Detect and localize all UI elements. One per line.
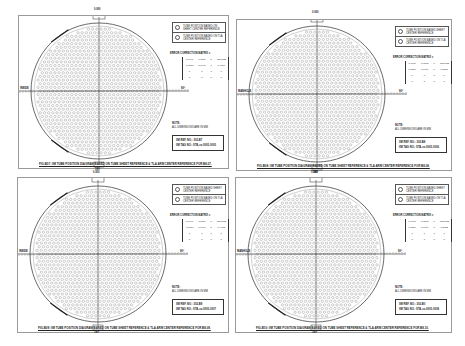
legend-item-tla: TUBE POSITION BASED ON TLA CENTER REFERE… <box>173 32 225 42</box>
legend-label: TUBE POSITION BASED ON SHEET CENTER REFE… <box>183 25 223 31</box>
drawing-panel-1: 0.000 INSIDE 90° 180° TUBE POSITION BASE… <box>18 15 229 169</box>
legend-box: TUBE POSITION BASED SHEET CENTER REFEREN… <box>395 26 449 47</box>
matrix-cell: 1 <box>214 74 229 80</box>
matrix-cell: 0 <box>183 74 196 80</box>
note-block: NOTE:ALL DIMENSIONS ARE IN MM <box>172 286 208 293</box>
legend-item-sheet: TUBE POSITION BASED SHEET CENTER REFEREN… <box>396 27 448 36</box>
error-matrix-title: ERROR CORRECTION MATRIX = <box>170 214 210 217</box>
legend-label: TUBE POSITION BASED ON TLA CENTER REFERE… <box>183 197 223 203</box>
tag-number: IIM TAG NO.: STA-xx-0005-0005 <box>176 143 220 148</box>
error-correction-matrix: 0.9998-0.00860-55.09820.00860.999800.381… <box>405 219 452 242</box>
right-label: 90° <box>398 250 402 253</box>
matrix-cell: 0 <box>406 236 419 242</box>
circle-marker-icon <box>175 25 180 30</box>
matrix-cell: 0 <box>183 236 196 242</box>
drawing-panel-3: 0.000 INSIDE 90° 180° TUBE POSITION BASE… <box>17 177 229 333</box>
top-label: 0.000 <box>93 171 100 174</box>
note-block: NOTE:ALL DIMENSIONS ARE IN MM <box>395 286 431 293</box>
note-text: ALL DIMENSIONS ARE IN MM <box>395 128 431 131</box>
circle-marker-icon <box>175 35 180 40</box>
figure-caption: FIG-B07: IIM TUBE POSITION DIAGRAM BASED… <box>39 162 212 166</box>
legend-label: TUBE POSITION BASED ON TLA CENTER REFERE… <box>406 39 446 45</box>
reference-box: IIM REF. NO.: 302-B8IIM TAG NO.: STA-xx-… <box>395 137 447 153</box>
note-title: NOTE: <box>395 286 403 289</box>
matrix-row: 0001 <box>406 78 452 84</box>
matrix-cell: 0 <box>196 74 208 80</box>
error-matrix-title: ERROR CORRECTION MATRIX = <box>393 214 433 217</box>
matrix-cell: 0 <box>418 236 431 242</box>
circle-marker-icon <box>398 197 403 202</box>
bottom-label: 180° <box>312 331 317 334</box>
drawing-panel-4: 0.000 MANHOLE 90° 180° TUBE POSITION BAS… <box>235 177 452 333</box>
note-title: NOTE: <box>395 124 403 127</box>
figure-caption: FIG-B09: IIM TUBE POSITION DIAGRAM BASED… <box>38 326 211 330</box>
legend-item-sheet: TUBE POSITION BASED SHEET CENTER REFEREN… <box>396 185 448 194</box>
circle-marker-icon <box>398 29 403 34</box>
legend-box: TUBE POSITION BASED SHEET CENTER REFEREN… <box>395 184 449 205</box>
error-matrix-title: ERROR CORRECTION MATRIX = <box>393 56 433 59</box>
reference-box: IIM REF. NO.: 302-B0IIM TAG NO.: STA-xx-… <box>395 299 447 315</box>
top-label: 0.000 <box>94 8 101 11</box>
legend-label: TUBE POSITION BASED ON TLA CENTER REFERE… <box>406 197 446 203</box>
matrix-cell: 1 <box>437 78 452 84</box>
note-title: NOTE: <box>172 122 180 125</box>
error-correction-matrix: 0.99960.00890-55.0982-0.00890.999600.440… <box>182 219 229 242</box>
figure-caption: FIG-B10: IIM TUBE POSITION DIAGRAM BASED… <box>256 326 429 330</box>
left-label: INSIDE <box>19 250 28 253</box>
note-block: NOTE:ALL DIMENSIONS ARE IN MM <box>172 122 208 129</box>
top-label: 0.000 <box>311 171 318 174</box>
legend-label: TUBE POSITION BASED SHEET CENTER REFEREN… <box>406 187 446 193</box>
right-label: 90° <box>181 87 185 90</box>
circle-marker-icon <box>398 187 403 192</box>
error-correction-matrix: 0.9998-0.00870-55.09820.00870.999800.389… <box>405 61 452 84</box>
legend-item-tla: TUBE POSITION BASED ON TLA CENTER REFERE… <box>173 194 225 204</box>
left-label: MANHOLE <box>237 250 250 253</box>
right-label: 90° <box>399 90 403 93</box>
reference-box: IIM REF. NO.: 302-B7IIM TAG NO.: STA-xx-… <box>172 135 224 151</box>
matrix-cell: 1 <box>437 236 452 242</box>
right-label: 90° <box>180 250 184 253</box>
matrix-row: 0001 <box>183 74 229 80</box>
tag-number: IIM TAG NO.: STA-xx-0005-0008 <box>399 307 443 312</box>
note-title: NOTE: <box>172 286 180 289</box>
circle-marker-icon <box>175 187 180 192</box>
circle-marker-icon <box>175 197 180 202</box>
note-text: ALL DIMENSIONS ARE IN MM <box>395 290 431 293</box>
bottom-label: 180° <box>94 331 99 334</box>
drawing-panel-2: 0.000 MANHOLE 90° 180° TUBE POSITION BAS… <box>236 19 452 171</box>
left-label: MANHOLE <box>238 90 251 93</box>
left-label: INSIDE <box>20 87 29 90</box>
matrix-row: 0001 <box>183 236 229 242</box>
figure-caption: FIG-B08: IIM TUBE POSITION DIAGRAM BASED… <box>257 164 430 168</box>
legend-box: TUBE POSITION BASED ON SHEET CENTER REFE… <box>172 22 226 43</box>
tag-number: IIM TAG NO.: STA-xx-0005-0007 <box>176 307 220 312</box>
circle-marker-icon <box>398 39 403 44</box>
legend-label: TUBE POSITION BASED SHEET CENTER REFEREN… <box>183 187 223 193</box>
error-correction-matrix: 0.99970.00870-55.0982-0.00870.999700.486… <box>182 57 229 80</box>
legend-label: TUBE POSITION BASED SHEET CENTER REFEREN… <box>406 29 446 35</box>
matrix-cell: 1 <box>214 236 229 242</box>
note-text: ALL DIMENSIONS ARE IN MM <box>172 290 208 293</box>
tag-number: IIM TAG NO.: STA-xx-0005-0006 <box>399 145 443 150</box>
note-block: NOTE:ALL DIMENSIONS ARE IN MM <box>395 124 431 131</box>
legend-box: TUBE POSITION BASED SHEET CENTER REFEREN… <box>172 184 226 205</box>
note-text: ALL DIMENSIONS ARE IN MM <box>172 126 208 129</box>
top-label: 0.000 <box>312 11 319 14</box>
legend-item-sheet: TUBE POSITION BASED ON SHEET CENTER REFE… <box>173 23 225 32</box>
matrix-row: 0001 <box>406 236 452 242</box>
error-matrix-title: ERROR CORRECTION MATRIX = <box>170 52 210 55</box>
reference-box: IIM REF. NO.: 302-B9IIM TAG NO.: STA-xx-… <box>172 299 224 315</box>
matrix-cell: 0 <box>406 78 419 84</box>
legend-item-tla: TUBE POSITION BASED ON TLA CENTER REFERE… <box>396 36 448 46</box>
matrix-cell: 0 <box>418 78 431 84</box>
legend-item-sheet: TUBE POSITION BASED SHEET CENTER REFEREN… <box>173 185 225 194</box>
matrix-cell: 0 <box>196 236 208 242</box>
legend-item-tla: TUBE POSITION BASED ON TLA CENTER REFERE… <box>396 194 448 204</box>
legend-label: TUBE POSITION BASED ON TLA CENTER REFERE… <box>183 35 223 41</box>
